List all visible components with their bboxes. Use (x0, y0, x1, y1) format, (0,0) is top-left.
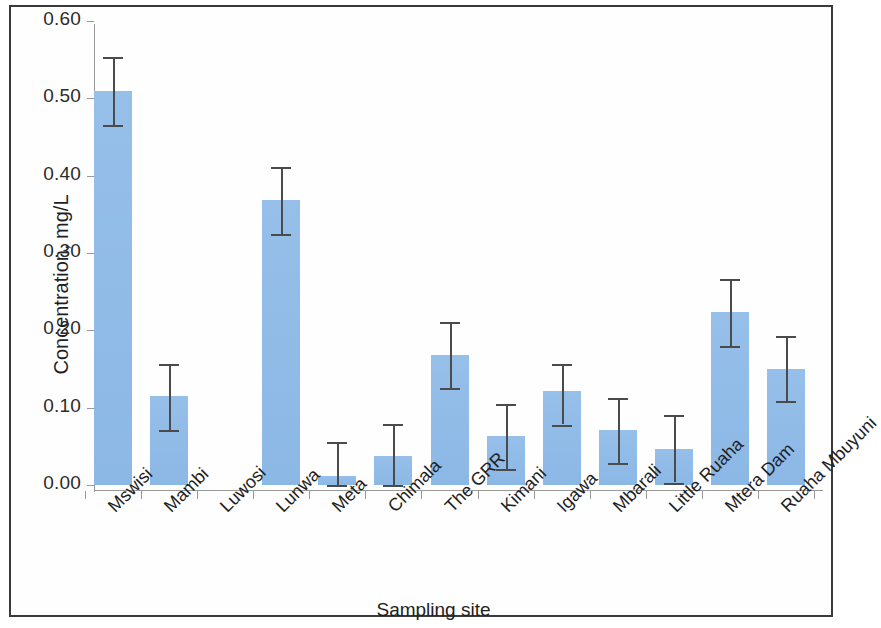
error-bar-cap-upper (103, 57, 123, 59)
error-bar-line (113, 57, 115, 125)
error-bar-cap-lower (608, 463, 628, 465)
bar (262, 200, 300, 485)
error-bar-line (562, 364, 564, 424)
error-bar-cap-lower (440, 388, 460, 390)
y-axis-tick-label: 0.40 (11, 163, 81, 185)
y-axis-tick-label: 0.00 (11, 472, 81, 494)
figure-border: Concentration, mg/L 0.000.100.200.300.40… (9, 5, 833, 617)
y-axis-tick-label: 0.20 (11, 317, 81, 339)
error-bar-cap-lower (552, 425, 572, 427)
y-axis-tick (87, 408, 94, 409)
error-bar-line (337, 442, 339, 485)
y-axis-tick (87, 98, 94, 99)
error-bar-line (786, 336, 788, 402)
y-axis-tick-label: 0.50 (11, 85, 81, 107)
y-axis-tick-label: 0.10 (11, 395, 81, 417)
error-bar-cap-lower (720, 346, 740, 348)
error-bar-cap-upper (383, 424, 403, 426)
error-bar-cap-upper (552, 364, 572, 366)
error-bar-line (393, 424, 395, 485)
y-axis-tick-label: 0.30 (11, 240, 81, 262)
error-bar-cap-upper (720, 279, 740, 281)
y-axis-tick (87, 485, 94, 486)
error-bar-cap-lower (271, 234, 291, 236)
y-axis-tick-label: 0.60 (11, 8, 81, 30)
x-axis-title: Sampling site (11, 599, 856, 621)
error-bar-cap-upper (496, 404, 516, 406)
error-bar-line (169, 364, 171, 431)
error-bar-cap-lower (103, 125, 123, 127)
error-bar-line (730, 279, 732, 346)
error-bar-cap-lower (776, 401, 796, 403)
error-bar-line (674, 415, 676, 482)
error-bar-cap-upper (776, 336, 796, 338)
error-bar-cap-upper (271, 167, 291, 169)
error-bar-cap-upper (327, 442, 347, 444)
error-bar-cap-upper (664, 415, 684, 417)
bar (94, 91, 132, 485)
error-bar-cap-lower (159, 430, 179, 432)
error-bar-cap-upper (608, 398, 628, 400)
error-bar-line (450, 322, 452, 389)
error-bar-line (618, 398, 620, 463)
y-axis-tick (87, 21, 94, 22)
y-axis-tick (87, 253, 94, 254)
error-bar-cap-upper (159, 364, 179, 366)
x-axis-tick (85, 491, 86, 499)
y-axis-tick (87, 330, 94, 331)
y-axis-tick (87, 176, 94, 177)
error-bar-cap-upper (440, 322, 460, 324)
error-bar-line (281, 167, 283, 234)
